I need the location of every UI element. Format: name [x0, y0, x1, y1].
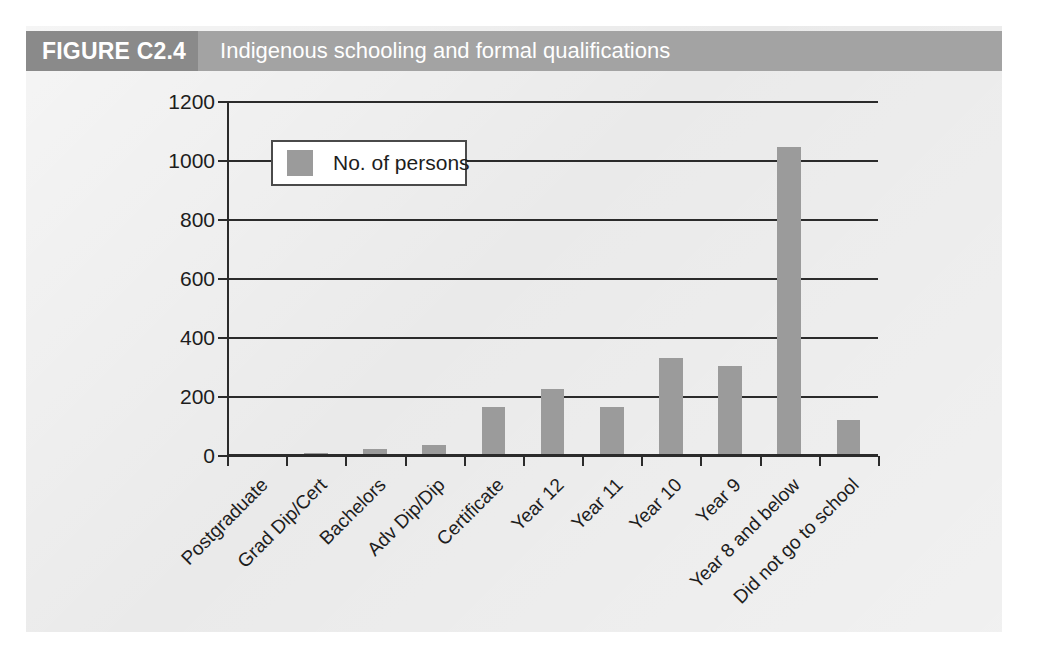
bar [659, 358, 683, 454]
y-tick-mark [218, 278, 227, 280]
gridline [227, 455, 878, 457]
y-tick-mark [218, 101, 227, 103]
x-tick-mark [819, 456, 821, 466]
x-label-slot: Year 12 [523, 468, 582, 628]
legend-swatch-icon [287, 150, 313, 176]
x-axis-labels: PostgraduateGrad Dip/CertBachelorsAdv Di… [227, 468, 878, 628]
legend-label: No. of persons [333, 151, 470, 175]
y-tick-label: 600 [180, 267, 215, 291]
bar-slot [582, 102, 641, 454]
y-tick-label: 400 [180, 326, 215, 350]
figure-header: FIGURE C2.4 Indigenous schooling and for… [26, 31, 1002, 71]
y-tick-label: 1000 [168, 149, 215, 173]
x-tick-mark [345, 456, 347, 466]
bar-slot [760, 102, 819, 454]
bar [482, 407, 506, 454]
x-tick-mark [700, 456, 702, 466]
x-tick-mark [286, 456, 288, 466]
bar [837, 420, 861, 454]
x-label-slot: Year 11 [582, 468, 641, 628]
y-tick-mark [218, 219, 227, 221]
x-label-slot: Did not go to school [819, 468, 878, 628]
y-tick-mark [218, 396, 227, 398]
bar [777, 147, 801, 454]
x-tick-mark [464, 456, 466, 466]
bar [541, 389, 565, 454]
x-tick-mark [878, 456, 880, 466]
x-tick-mark [523, 456, 525, 466]
bar [600, 407, 624, 454]
chart-area: 020040060080010001200 PostgraduateGrad D… [26, 71, 1002, 632]
x-axis-label: Year 9 [692, 474, 746, 528]
bar [304, 453, 328, 454]
bar-slot [464, 102, 523, 454]
y-tick-mark [218, 455, 227, 457]
y-tick-label: 1200 [168, 90, 215, 114]
bar-slot [819, 102, 878, 454]
y-tick-mark [218, 337, 227, 339]
x-label-slot: Grad Dip/Cert [286, 468, 345, 628]
x-tick-mark [641, 456, 643, 466]
y-tick-label: 800 [180, 208, 215, 232]
x-tick-mark [760, 456, 762, 466]
figure-number: FIGURE C2.4 [26, 31, 198, 71]
y-tick-mark [218, 160, 227, 162]
bar [363, 449, 387, 454]
bar-slot [701, 102, 760, 454]
x-label-slot: Year 10 [641, 468, 700, 628]
bar [422, 445, 446, 454]
y-tick-label: 200 [180, 385, 215, 409]
x-tick-mark [227, 456, 229, 466]
y-tick-label: 0 [203, 444, 215, 468]
bar-slot [523, 102, 582, 454]
figure-caption: Indigenous schooling and formal qualific… [198, 38, 670, 64]
x-label-slot: Certificate [464, 468, 523, 628]
x-label-slot: Adv Dip/Dip [405, 468, 464, 628]
x-tick-mark [582, 456, 584, 466]
bar [718, 366, 742, 455]
bar-slot [641, 102, 700, 454]
x-tick-mark [405, 456, 407, 466]
chart-legend: No. of persons [271, 140, 467, 186]
figure-root: FIGURE C2.4 Indigenous schooling and for… [0, 0, 1042, 664]
